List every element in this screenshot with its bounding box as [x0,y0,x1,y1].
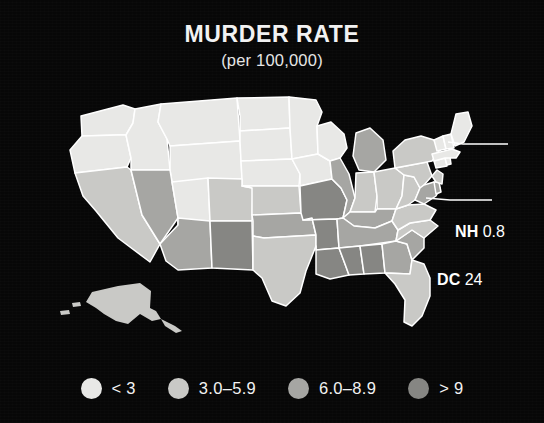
callout-nh-value: 0.8 [483,223,505,240]
state-AK-aleutian-1 [72,302,81,307]
map-canvas: NH0.8 DC24 [0,78,544,350]
state-AK [86,283,161,324]
state-MI [353,128,386,172]
legend-label-3: > 9 [439,379,463,398]
murder-rate-map-figure: MURDER RATE (per 100,000) [0,0,544,423]
legend-swatch-icon-0 [81,378,102,399]
state-AL [360,244,385,274]
legend-item-3: > 9 [408,378,463,399]
legend-swatch-icon-2 [288,378,309,399]
state-WI [317,122,347,161]
state-AK-aleutian-2 [60,310,70,315]
state-MT [158,98,240,146]
callout-nh: NH0.8 [455,224,505,240]
state-NE [241,159,300,186]
legend-label-2: 6.0–8.9 [319,379,376,398]
callout-nh-abbr: NH [455,223,479,240]
leader-line-dc [426,198,492,200]
legend-label-0: < 3 [112,379,136,398]
us-choropleth-svg [0,78,544,350]
callout-dc-value: 24 [465,271,483,288]
legend-label-1: 3.0–5.9 [199,379,256,398]
callout-dc: DC24 [437,272,483,288]
state-ME [451,112,472,146]
state-WY [170,141,242,182]
legend-item-0: < 3 [81,378,136,399]
page-title: MURDER RATE [0,22,544,46]
state-TX [253,235,316,306]
state-WA [81,105,135,136]
legend-item-1: 3.0–5.9 [168,378,256,399]
legend-swatch-icon-1 [168,378,189,399]
callout-dc-abbr: DC [437,271,461,288]
state-SD [240,128,292,161]
map-subtitle: (per 100,000) [0,52,544,69]
legend: < 3 3.0–5.9 6.0–8.9 > 9 [0,373,544,403]
legend-swatch-icon-3 [408,378,429,399]
title-block: MURDER RATE (per 100,000) [0,22,544,69]
state-NY [393,136,440,168]
state-NM [210,221,253,270]
legend-item-2: 6.0–8.9 [288,378,376,399]
state-AK-panhandle [161,319,182,333]
state-ND [237,97,290,131]
